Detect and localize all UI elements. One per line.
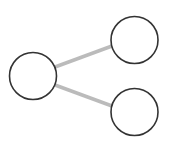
nodes-group: [10, 17, 159, 136]
node-top-right: [111, 17, 158, 64]
edge-left-to-bottom-right: [55, 85, 112, 106]
edge-left-to-top-right: [55, 46, 112, 67]
share-diagram: [0, 0, 170, 162]
node-bottom-right: [111, 89, 158, 136]
node-left: [10, 53, 57, 100]
edges-group: [55, 46, 112, 106]
share-graph-icon: [0, 0, 170, 162]
